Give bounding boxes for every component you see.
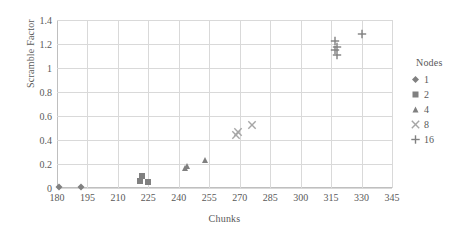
gridline-vertical: [148, 20, 149, 188]
data-point-4: [202, 156, 209, 163]
x-tick-label: 285: [263, 192, 278, 203]
data-point-2: [145, 179, 152, 186]
gridline-vertical: [179, 20, 180, 188]
legend-item-8[interactable]: 8: [409, 117, 469, 132]
data-point-16: [357, 29, 366, 38]
legend: Nodes 124816: [409, 57, 469, 147]
gridline-horizontal: [57, 164, 392, 165]
gridline-vertical: [209, 20, 210, 188]
square-icon: [409, 88, 422, 101]
legend-item-2[interactable]: 2: [409, 87, 469, 102]
scatter-chart: Scramble Factor 00.20.40.60.811.21.41801…: [0, 0, 470, 236]
data-point-8: [247, 121, 256, 130]
legend-item-label: 2: [424, 90, 429, 100]
triangle-icon: [409, 103, 422, 116]
gridline-vertical: [87, 20, 88, 188]
y-tick-label: 1.2: [40, 39, 53, 50]
gridline-vertical: [270, 20, 271, 188]
y-axis-line: [57, 20, 58, 188]
plot-area: 00.20.40.60.811.21.418019521022524025527…: [57, 20, 392, 188]
gridline-horizontal: [57, 44, 392, 45]
y-tick-label: 0.6: [40, 111, 53, 122]
diamond-icon: [409, 73, 422, 86]
gridline-horizontal: [57, 92, 392, 93]
x-tick-label: 225: [141, 192, 156, 203]
x-tick-label: 180: [50, 192, 65, 203]
legend-item-16[interactable]: 16: [409, 132, 469, 147]
data-point-1: [78, 184, 85, 191]
y-tick-label: 0.8: [40, 87, 53, 98]
legend-item-label: 16: [424, 135, 434, 145]
gridline-vertical: [118, 20, 119, 188]
gridline-vertical: [301, 20, 302, 188]
gridline-horizontal: [57, 116, 392, 117]
gridline-vertical: [362, 20, 363, 188]
legend-item-list: 124816: [409, 72, 469, 147]
gridline-horizontal: [57, 68, 392, 69]
data-point-8: [233, 127, 242, 136]
gridline-horizontal: [57, 140, 392, 141]
data-point-4: [183, 163, 190, 170]
x-tick-label: 240: [171, 192, 186, 203]
x-tick-label: 345: [385, 192, 400, 203]
legend-item-1[interactable]: 1: [409, 72, 469, 87]
x-tick-label: 255: [202, 192, 217, 203]
y-tick-label: 1.4: [40, 15, 53, 26]
legend-item-label: 4: [424, 105, 429, 115]
y-axis-title: Scramble Factor: [25, 0, 36, 129]
gridline-horizontal: [57, 188, 392, 189]
plus-icon: [409, 133, 422, 146]
x-tick-label: 330: [354, 192, 369, 203]
x-tick-label: 315: [324, 192, 339, 203]
y-tick-label: 0.4: [40, 135, 53, 146]
legend-title: Nodes: [409, 57, 469, 68]
data-point-16: [333, 51, 342, 60]
gridline-vertical: [392, 20, 393, 188]
y-tick-label: 0.2: [40, 159, 53, 170]
y-tick-label: 1: [47, 63, 52, 74]
legend-item-label: 8: [424, 120, 429, 130]
legend-item-label: 1: [424, 75, 429, 85]
x-tick-label: 210: [110, 192, 125, 203]
data-point-1: [56, 184, 63, 191]
x-tick-label: 195: [80, 192, 95, 203]
x-axis-title: Chunks: [57, 213, 392, 224]
x-tick-label: 270: [232, 192, 247, 203]
legend-item-4[interactable]: 4: [409, 102, 469, 117]
cross-x-icon: [409, 118, 422, 131]
x-tick-label: 300: [293, 192, 308, 203]
gridline-horizontal: [57, 20, 392, 21]
gridline-vertical: [240, 20, 241, 188]
